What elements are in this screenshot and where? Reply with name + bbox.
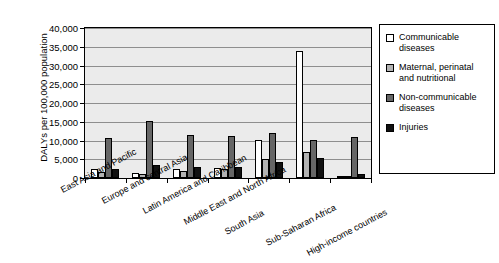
legend-label: Injuries — [399, 122, 428, 133]
y-axis-tick-label: 25,000 — [32, 79, 78, 90]
legend-label: Communicable diseases — [399, 32, 489, 54]
y-axis-tick-mark — [80, 84, 84, 85]
y-axis-tick-label: 40,000 — [32, 23, 78, 34]
y-axis-tick-label: 5,000 — [32, 154, 78, 165]
y-axis-tick-label: 30,000 — [32, 60, 78, 71]
bar — [255, 140, 262, 178]
y-axis-tick-label: 20,000 — [32, 98, 78, 109]
bar — [351, 137, 358, 178]
bar — [180, 171, 187, 179]
bar — [187, 135, 194, 178]
bar — [303, 152, 310, 178]
legend-swatch — [386, 34, 394, 42]
legend-swatch — [386, 94, 394, 102]
bar — [235, 167, 242, 178]
x-axis-tick-mark — [167, 179, 168, 183]
x-axis-tick-mark — [371, 179, 372, 183]
legend-item: Non-communicable diseases — [386, 92, 489, 114]
bar — [317, 158, 324, 178]
legend: Communicable diseasesMaternal, perinatal… — [379, 24, 495, 174]
bar — [358, 174, 365, 179]
bar-group — [167, 28, 208, 178]
y-axis-tick-label: 35,000 — [32, 41, 78, 52]
bar — [344, 176, 351, 178]
legend-label: Non-communicable diseases — [399, 92, 489, 114]
y-axis-tick-label: 15,000 — [32, 116, 78, 127]
bar-group — [289, 28, 330, 178]
bar — [296, 51, 303, 179]
legend-label: Maternal, perinatal and nutritional — [399, 62, 489, 84]
y-axis-tick-mark — [80, 28, 84, 29]
legend-item: Maternal, perinatal and nutritional — [386, 62, 489, 84]
bar — [173, 169, 180, 178]
legend-swatch — [386, 124, 394, 132]
y-axis-tick-mark — [80, 66, 84, 67]
y-axis-tick-label: 10,000 — [32, 135, 78, 146]
y-axis-tick-mark — [80, 159, 84, 160]
y-axis-tick-mark — [80, 141, 84, 142]
bar — [337, 176, 344, 178]
legend-item: Communicable diseases — [386, 32, 489, 54]
bar-group — [248, 28, 289, 178]
x-axis-tick-mark — [330, 179, 331, 183]
y-axis-tick-mark — [80, 103, 84, 104]
bar-group — [330, 28, 371, 178]
bar — [310, 140, 317, 178]
x-axis-tick-mark — [289, 179, 290, 183]
bar-chart: DALYs per 100,000 population 05,00010,00… — [0, 0, 499, 263]
bar — [112, 169, 119, 178]
x-axis-category-label: South Asia — [223, 208, 266, 237]
y-axis-tick-mark — [80, 122, 84, 123]
legend-item: Injuries — [386, 122, 489, 133]
y-axis-tick-mark — [80, 47, 84, 48]
legend-swatch — [386, 64, 394, 72]
